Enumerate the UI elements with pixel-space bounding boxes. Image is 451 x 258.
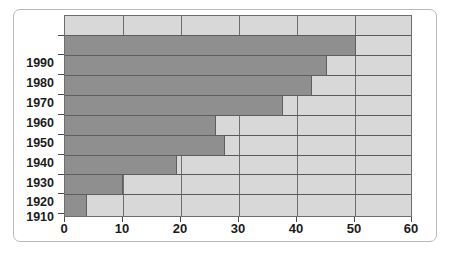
bar-1920: [65, 174, 123, 195]
x-tick-label-0: 0: [44, 222, 84, 235]
bar-1930: [65, 155, 177, 175]
y-tick-label-1960: 1960: [8, 117, 54, 130]
y-tick-label-1930: 1930: [8, 177, 54, 190]
x-tick-label-10: 10: [102, 222, 142, 235]
bar-1910: [65, 194, 87, 217]
x-tick-label-40: 40: [276, 222, 316, 235]
x-tick-label-50: 50: [334, 222, 374, 235]
bar-1990: [65, 35, 356, 56]
bar-1950: [65, 115, 216, 136]
y-tick-label-1980: 1980: [8, 77, 54, 90]
x-tick-label-60: 60: [391, 222, 431, 235]
x-tick-label-20: 20: [160, 222, 200, 235]
bar-1980: [65, 55, 327, 76]
y-tick-label-1950: 1950: [8, 137, 54, 150]
plot-area: [64, 15, 412, 217]
y-tick-label-1970: 1970: [8, 97, 54, 110]
x-tick-label-30: 30: [218, 222, 258, 235]
y-tick-label-1990: 1990: [8, 57, 54, 70]
bar-1940: [65, 135, 225, 156]
y-tick-label-1920: 1920: [8, 196, 54, 209]
bar-chart-figure: 1990 1980 1970 1960 1950 1940 1930 1920 …: [0, 0, 451, 258]
bar-1960: [65, 95, 283, 116]
bar-1970: [65, 75, 312, 96]
y-tick-label-1940: 1940: [8, 157, 54, 170]
